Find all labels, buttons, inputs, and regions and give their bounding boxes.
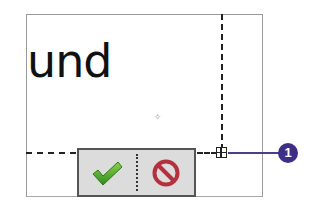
frame-text[interactable]: und <box>27 38 112 84</box>
callout-leader-line <box>228 152 280 154</box>
callout-badge: 1 <box>278 143 298 163</box>
checkmark-icon <box>90 159 124 187</box>
horizontal-guide-line-left <box>26 152 76 154</box>
horizontal-guide-line-right <box>197 152 217 154</box>
cancel-button[interactable] <box>138 150 195 195</box>
confirm-toolbar <box>77 148 196 197</box>
cancel-prohibited-icon <box>151 158 181 188</box>
vertical-guide-line <box>221 14 223 150</box>
accept-button[interactable] <box>79 150 136 195</box>
resize-handle[interactable] <box>216 147 227 158</box>
crosshair-cursor-icon: ✧ <box>153 113 162 122</box>
